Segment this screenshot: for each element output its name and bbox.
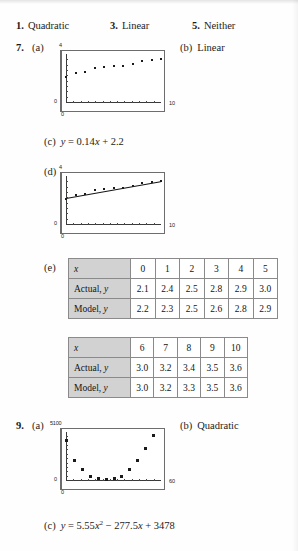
graph-x-max-label: 60 <box>169 478 175 484</box>
table-cell: 8 <box>177 338 200 358</box>
graph-x-tick <box>154 223 155 225</box>
graph-data-point <box>65 76 67 78</box>
problem-7-part-d-label: (d) <box>44 166 56 177</box>
graph-x-tick <box>73 101 74 103</box>
graph-y-max-label: 4 <box>59 42 62 48</box>
table-cell: 10 <box>224 338 247 358</box>
graph-data-point <box>141 60 143 62</box>
problem-7-number: 7. <box>16 42 24 53</box>
table-row-header: Model, y <box>69 299 131 319</box>
graph-x-tick <box>146 479 147 481</box>
graph-x-tick <box>132 223 133 225</box>
graph-data-point <box>105 478 108 481</box>
problem-7-part-c-label: (c) <box>44 136 56 147</box>
answer-number-5: 5. <box>192 20 200 31</box>
graph-y-tick <box>66 59 68 60</box>
graph-data-point <box>122 65 124 67</box>
graph-x-tick <box>103 479 104 481</box>
problem-7-part-a-label: (a) <box>32 42 44 53</box>
graph-x-zero-label: 0 <box>61 489 64 495</box>
table-cell: 6 <box>131 338 154 358</box>
graph-data-point <box>136 459 139 462</box>
table-row-header: x <box>69 338 131 358</box>
graph-x-tick <box>95 101 96 103</box>
scan-edge-top <box>0 0 298 4</box>
graph-y-tick <box>66 181 68 182</box>
graph-x-max-label: 10 <box>169 100 175 106</box>
graph-x-zero-label: 0 <box>61 111 64 117</box>
table-cell: 2.4 <box>155 279 180 299</box>
graph-x-tick <box>103 223 104 225</box>
scan-edge-right <box>292 0 298 551</box>
problem-7-part-e-label: (e) <box>44 262 56 273</box>
graph-data-point <box>103 66 105 68</box>
graph-y-tick <box>66 219 68 220</box>
graph-y-tick <box>66 91 68 92</box>
answer-item-3: 3.Linear <box>110 20 149 31</box>
table-cell: 3.0 <box>131 378 154 398</box>
table-cell: 9 <box>201 338 224 358</box>
table-cell: 3 <box>204 259 229 279</box>
table-cell: 7 <box>154 338 177 358</box>
graph-y-max-label: 4 <box>59 164 62 170</box>
table-cell: 3.5 <box>201 358 224 378</box>
problem-7-part-b-answer: Linear <box>197 42 224 53</box>
table-cell: 0 <box>131 259 156 279</box>
graph-x-tick <box>117 223 118 225</box>
graph-x-tick <box>154 479 155 481</box>
table-cell: 3.2 <box>154 358 177 378</box>
table-row-header: Actual, y <box>69 358 131 378</box>
table-cell: 3.6 <box>224 358 247 378</box>
table-row: Model, y2.22.32.52.62.82.9 <box>69 299 278 319</box>
problem-9-part-c-label: (c) <box>44 520 56 531</box>
graph-data-point <box>151 181 153 183</box>
graph-data-point <box>84 193 86 195</box>
graph-x-tick <box>110 223 111 225</box>
graph-x-tick <box>103 101 104 103</box>
graph-y-tick <box>66 203 68 204</box>
graph-data-point <box>84 71 86 73</box>
graph-x-tick <box>146 223 147 225</box>
graph-data-point <box>73 459 76 462</box>
table-cell: 3.5 <box>201 378 224 398</box>
table-body: x678910Actual, y3.03.23.43.53.6Model, y3… <box>69 338 248 398</box>
table-cell: 2.8 <box>204 279 229 299</box>
problem-9-graph-a: 5100 60 0 0 <box>60 428 165 490</box>
graph-y-tick <box>66 445 68 446</box>
graph-y-tick <box>66 436 68 437</box>
graph-x-zero-label: 0 <box>61 233 64 239</box>
graph-x-tick <box>132 101 133 103</box>
graph-y-tick <box>66 65 68 66</box>
graph-y-tick <box>66 463 68 464</box>
table-body: x012345Actual, y2.12.42.52.82.93.0Model,… <box>69 259 278 319</box>
problem-7-part-b-label: (b) <box>180 42 192 53</box>
answer-number-1: 1. <box>16 20 24 31</box>
textbook-answer-page: 1.Quadratic 3.Linear 5.Neither 7. (a) (b… <box>0 0 298 551</box>
table-cell: 2.8 <box>229 299 254 319</box>
problem-9-part-b: (b)Quadratic <box>180 420 239 431</box>
graph-x-tick <box>73 479 74 481</box>
graph-data-point <box>81 468 84 471</box>
graph-data-point <box>94 67 96 69</box>
answer-item-1: 1.Quadratic <box>16 20 69 31</box>
graph-x-tick <box>88 101 89 103</box>
graph-x-tick <box>110 479 111 481</box>
graph-data-point <box>113 187 115 189</box>
answer-text-1: Quadratic <box>28 20 69 31</box>
table-row: Model, y3.03.23.33.53.6 <box>69 378 248 398</box>
table-cell: 1 <box>155 259 180 279</box>
table-cell: 2.9 <box>229 279 254 299</box>
graph-data-point <box>113 65 115 67</box>
graph-y-zero-label: 0 <box>54 476 57 482</box>
table-cell: 2.5 <box>180 279 205 299</box>
graph-data-point <box>65 198 67 200</box>
table-row-header: x <box>69 259 131 279</box>
graph-x-tick <box>117 479 118 481</box>
graph-y-tick <box>66 187 68 188</box>
table-cell: 2.1 <box>131 279 156 299</box>
table-cell: 2.5 <box>180 299 205 319</box>
table-cell: 3.6 <box>224 378 247 398</box>
table-cell: 2 <box>180 259 205 279</box>
graph-x-tick <box>117 101 118 103</box>
problem-9-part-c-equation: y = 5.55x2 − 277.5x + 3478 <box>61 520 175 531</box>
